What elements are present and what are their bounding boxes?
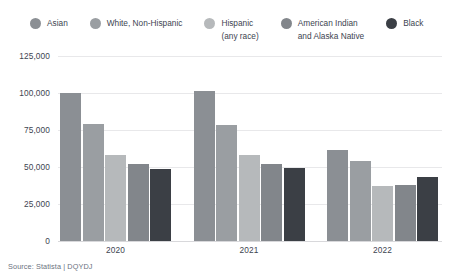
legend-label-black-line1: Black xyxy=(403,18,423,28)
legend-swatch-black xyxy=(386,18,397,29)
y-axis: 025,00050,00075,000100,000125,000 xyxy=(0,56,58,241)
bar-groups xyxy=(58,56,442,241)
bar[interactable] xyxy=(327,150,348,241)
bar-group-2020 xyxy=(60,56,171,241)
bar[interactable] xyxy=(350,161,371,241)
legend-label-hispanic-line2: (any race) xyxy=(221,30,258,43)
bar[interactable] xyxy=(372,186,393,241)
bar[interactable] xyxy=(105,155,126,241)
bar[interactable] xyxy=(128,164,149,241)
legend-label-aian-line1: American Indian xyxy=(298,18,358,28)
legend-item-black: Black xyxy=(386,17,423,30)
legend-label-black: Black xyxy=(403,17,423,30)
legend-label-hispanic-line1: Hispanic xyxy=(221,18,253,28)
legend-label-asian-line1: Asian xyxy=(47,18,68,28)
bar[interactable] xyxy=(216,125,237,241)
bar[interactable] xyxy=(395,185,416,241)
legend-label-aian-line2: and Alaska Native xyxy=(298,30,364,43)
grid-area xyxy=(58,56,442,241)
legend-label-white-non-hispanic-line1: White, Non-Hispanic xyxy=(107,18,183,28)
bar[interactable] xyxy=(83,124,104,241)
y-axis-tick-label: 125,000 xyxy=(19,51,50,61)
legend-label-white-non-hispanic: White, Non-Hispanic xyxy=(107,17,183,30)
bar[interactable] xyxy=(60,93,81,241)
legend-swatch-asian xyxy=(30,18,41,29)
bar[interactable] xyxy=(239,155,260,241)
legend-label-asian: Asian xyxy=(47,17,68,30)
legend-label-american-indian-alaska-native: American Indian and Alaska Native xyxy=(298,17,364,42)
bar[interactable] xyxy=(261,164,282,241)
legend-swatch-american-indian-alaska-native xyxy=(281,18,292,29)
y-axis-tick-label: 25,000 xyxy=(24,199,50,209)
legend-item-hispanic: Hispanic (any race) xyxy=(204,17,258,42)
chart-legend: Asian White, Non-Hispanic Hispanic (any … xyxy=(0,0,458,56)
legend-swatch-hispanic xyxy=(204,18,215,29)
bar[interactable] xyxy=(417,177,438,241)
y-axis-tick-label: 75,000 xyxy=(24,125,50,135)
x-axis-tick-label: 2022 xyxy=(373,245,392,255)
bar[interactable] xyxy=(150,169,171,241)
legend-item-asian: Asian xyxy=(30,17,68,30)
x-axis-tick-label: 2020 xyxy=(106,245,125,255)
bar-group-2021 xyxy=(194,56,305,241)
bar-group-2022 xyxy=(327,56,438,241)
source-note: Source: Statista | DQYDJ xyxy=(8,262,93,271)
chart-plot-area: 025,00050,00075,000100,000125,000 xyxy=(0,56,450,241)
x-axis: 202020212022 xyxy=(58,241,450,259)
legend-item-american-indian-alaska-native: American Indian and Alaska Native xyxy=(281,17,364,42)
y-axis-tick-label: 0 xyxy=(45,236,50,246)
legend-swatch-white-non-hispanic xyxy=(90,18,101,29)
legend-item-white-non-hispanic: White, Non-Hispanic xyxy=(90,17,183,30)
bar[interactable] xyxy=(284,168,305,241)
y-axis-tick-label: 100,000 xyxy=(19,88,50,98)
bar[interactable] xyxy=(194,91,215,241)
legend-label-hispanic: Hispanic (any race) xyxy=(221,17,258,42)
x-axis-tick-label: 2021 xyxy=(240,245,259,255)
y-axis-tick-label: 50,000 xyxy=(24,162,50,172)
